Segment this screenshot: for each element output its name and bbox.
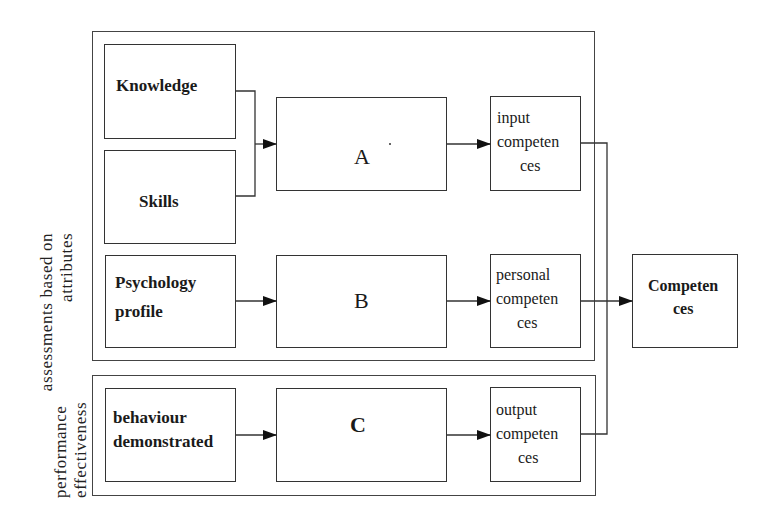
connector-lines [0, 0, 773, 527]
